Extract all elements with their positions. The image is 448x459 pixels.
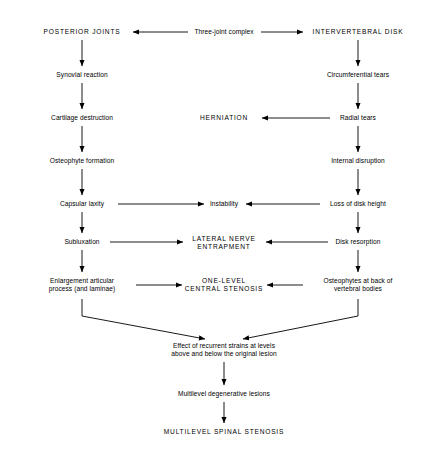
node-radial-tears: Radial tears [340, 114, 376, 122]
flowchart-canvas: POSTERIOR JOINTS Three-joint complex INT… [0, 0, 448, 459]
node-multilevel-spinal-stenosis: MULTILEVEL SPINAL STENOSIS [164, 428, 284, 436]
node-internal-disruption: Internal disruption [331, 157, 385, 165]
node-osteophyte-formation: Osteophyte formation [50, 157, 114, 165]
node-circumferential-tears: Circumferential tears [327, 71, 389, 79]
node-disk-resorption: Disk resorption [336, 238, 381, 246]
node-one-level-central-stenosis: ONE-LEVEL CENTRAL STENOSIS [185, 277, 263, 293]
node-multilevel-degenerative-lesions: Multilevel degenerative lesions [178, 390, 270, 398]
node-cartilage-destruction: Cartilage destruction [51, 114, 113, 122]
edge-enlargement-to-effect [82, 299, 205, 339]
node-instability: Instability [210, 200, 238, 208]
node-herniation: HERNIATION [200, 114, 248, 122]
node-posterior-joints: POSTERIOR JOINTS [44, 28, 121, 36]
node-enlargement-articular-process: Enlargement articular process (and lamin… [49, 277, 116, 293]
node-lateral-nerve-entrapment: LATERAL NERVE ENTRAPMENT [192, 235, 255, 251]
node-subluxation: Subluxation [64, 238, 99, 246]
node-osteophytes-at-back: Osteophytes at back of vertebral bodies [324, 277, 393, 293]
node-three-joint-complex: Three-joint complex [194, 28, 253, 36]
node-intervertebral-disk: INTERVERTEBRAL DISK [313, 28, 404, 36]
node-capsular-laxity: Capsular laxity [60, 200, 104, 208]
node-loss-of-disk-height: Loss of disk height [330, 200, 386, 208]
node-synovial-reaction: Synovial reaction [56, 71, 107, 79]
edge-osteophytes-back-to-effect [243, 299, 358, 339]
node-effect-of-recurrent-strains: Effect of recurrent strains at levels ab… [171, 342, 276, 358]
